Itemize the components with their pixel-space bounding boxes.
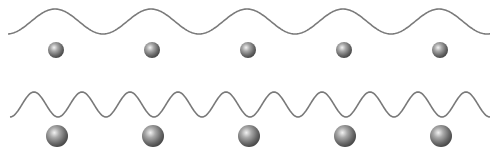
high-frequency-particles — [46, 125, 452, 147]
particle-ball — [240, 42, 256, 58]
high-frequency-wave — [10, 92, 490, 117]
particle-ball — [432, 42, 448, 58]
low-frequency-wave — [8, 9, 490, 34]
particle-ball — [336, 42, 352, 58]
particle-ball — [48, 42, 64, 58]
particle-ball — [144, 42, 160, 58]
low-frequency-row — [8, 9, 490, 58]
low-frequency-particles — [48, 42, 448, 58]
particle-ball — [430, 125, 452, 147]
wave-particle-diagram — [0, 0, 502, 156]
particle-ball — [238, 125, 260, 147]
particle-ball — [334, 125, 356, 147]
particle-ball — [46, 125, 68, 147]
particle-ball — [142, 125, 164, 147]
high-frequency-row — [10, 92, 490, 147]
